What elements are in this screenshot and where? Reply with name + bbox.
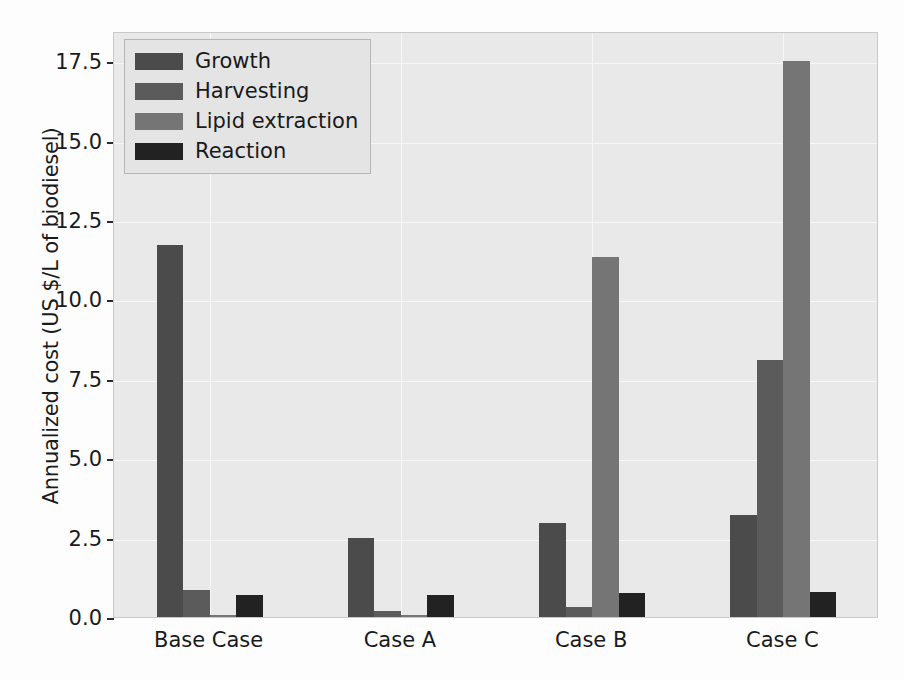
gridline-horizontal: [114, 222, 877, 223]
y-axis-tick-label: 15.0: [55, 130, 102, 154]
x-axis-tick-label: Case A: [364, 628, 436, 652]
gridline-vertical: [401, 33, 402, 617]
legend-label: Reaction: [195, 141, 286, 162]
legend-label: Growth: [195, 51, 271, 72]
legend-label: Lipid extraction: [195, 111, 358, 132]
y-axis-tick-label: 7.5: [69, 368, 102, 392]
bar: [374, 611, 401, 617]
y-axis-tick: [107, 618, 114, 620]
legend-swatch-icon: [135, 83, 183, 100]
gridline-horizontal: [114, 301, 877, 302]
legend-swatch-icon: [135, 53, 183, 70]
x-axis-tick-label: Case B: [555, 628, 627, 652]
bar: [757, 360, 784, 617]
bar: [157, 245, 184, 617]
y-axis-label: Annualized cost (US $/L of biodiesel): [34, 7, 68, 625]
y-axis-tick-label: 12.5: [55, 209, 102, 233]
bar: [619, 593, 646, 617]
legend-label: Harvesting: [195, 81, 309, 102]
bar: [236, 595, 263, 617]
y-axis-tick-label: 10.0: [55, 288, 102, 312]
y-axis-tick-label: 17.5: [55, 50, 102, 74]
legend-item: Reaction: [135, 136, 358, 166]
y-axis-tick-label: 0.0: [69, 606, 102, 630]
bar: [810, 592, 837, 617]
x-axis-tick-label: Case C: [746, 628, 819, 652]
bar: [401, 615, 428, 617]
bar: [210, 615, 237, 617]
bar: [592, 257, 619, 617]
chart-figure: Annualized cost (US $/L of biodiesel) 0.…: [0, 0, 904, 681]
bar: [783, 61, 810, 617]
bar: [183, 590, 210, 617]
bar: [730, 515, 757, 617]
y-axis-tick-label: 2.5: [69, 527, 102, 551]
bar: [539, 523, 566, 617]
bar: [348, 538, 375, 617]
legend-item: Growth: [135, 46, 358, 76]
chart-legend: GrowthHarvestingLipid extractionReaction: [124, 39, 371, 174]
legend-item: Harvesting: [135, 76, 358, 106]
bar: [427, 595, 454, 617]
y-axis-tick-label: 5.0: [69, 447, 102, 471]
legend-swatch-icon: [135, 143, 183, 160]
legend-swatch-icon: [135, 113, 183, 130]
bar: [566, 607, 593, 617]
x-axis-tick-label: Base Case: [154, 628, 263, 652]
legend-item: Lipid extraction: [135, 106, 358, 136]
